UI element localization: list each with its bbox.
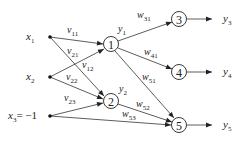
node-4-label: 4 <box>176 66 182 80</box>
hidden-out-y2: y2 <box>118 83 127 97</box>
output-label-y5: y5 <box>222 118 232 133</box>
weight-w51: w51 <box>142 71 156 85</box>
input-label-x2: x2 <box>25 70 35 85</box>
weight-v11: v11 <box>67 24 79 38</box>
node-5-label: 5 <box>176 119 182 133</box>
weight-v21: v21 <box>67 45 79 59</box>
weight-w31: w31 <box>137 9 151 23</box>
input-label-x3: x3= −1 <box>7 109 37 124</box>
input-dots <box>48 35 52 118</box>
edge-x3-2 <box>50 103 103 116</box>
neural-network-diagram: x1 x2 x3= −1 1 2 3 4 5 y1 y2 y3 y4 y5 v1… <box>0 0 247 144</box>
output-label-y3: y3 <box>222 12 232 27</box>
weight-v23: v23 <box>64 92 76 106</box>
hidden-out-y1: y1 <box>117 23 126 37</box>
node-1-label: 1 <box>108 38 114 52</box>
input-dot-x3 <box>48 114 52 118</box>
edge-x1-1 <box>50 37 103 44</box>
input-dot-x2 <box>48 75 52 79</box>
weight-w52: w52 <box>136 98 150 112</box>
input-label-x1: x1 <box>25 30 35 45</box>
input-dot-x1 <box>48 35 52 39</box>
edge-x3-5 <box>50 116 171 125</box>
node-2-label: 2 <box>108 95 114 109</box>
output-label-y4: y4 <box>222 65 232 80</box>
edge-1-3 <box>118 22 172 41</box>
weight-w53: w53 <box>122 108 136 122</box>
edge-x1-2 <box>50 37 104 96</box>
weight-w41: w41 <box>144 46 158 60</box>
weight-v12: v12 <box>82 59 94 73</box>
weight-v22: v22 <box>66 71 78 85</box>
node-3-label: 3 <box>176 13 182 27</box>
